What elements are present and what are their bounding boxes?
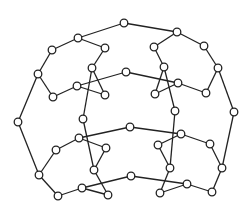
graph-node <box>151 90 159 98</box>
graph-node <box>156 189 164 197</box>
graph-node <box>174 79 182 87</box>
graph-node <box>166 164 174 172</box>
graph-edge <box>77 72 126 86</box>
graph-node <box>75 134 83 142</box>
graph-edge <box>178 83 206 93</box>
graph-node <box>208 188 216 196</box>
graph-edge <box>177 32 204 46</box>
graph-node <box>160 63 168 71</box>
graph-edge <box>218 68 234 112</box>
graph-node <box>48 46 56 54</box>
graph-node <box>206 140 214 148</box>
graph-node <box>49 93 57 101</box>
graph-edge <box>131 176 187 184</box>
graph-node <box>102 144 110 152</box>
graph-node <box>35 171 43 179</box>
graph-edge <box>18 74 38 122</box>
graph-node <box>230 108 238 116</box>
graph-node <box>79 115 87 123</box>
graph-edge <box>83 119 94 170</box>
graph-edge <box>181 134 210 144</box>
graph-node <box>104 191 112 199</box>
graph-edge <box>39 150 56 175</box>
graph-edge <box>18 122 39 175</box>
graph-edge <box>222 112 234 168</box>
graph-node <box>90 166 98 174</box>
graph-edge <box>124 23 177 32</box>
graph-edge <box>83 68 92 119</box>
graph-node <box>88 64 96 72</box>
graph-edge <box>82 176 131 188</box>
graph-node <box>101 44 109 52</box>
graph-node <box>34 70 42 78</box>
graph-node <box>177 130 185 138</box>
graph-node <box>126 123 134 131</box>
graph-nodes <box>14 19 238 200</box>
graph-node <box>73 82 81 90</box>
graph-node <box>122 68 130 76</box>
graph-node <box>150 43 158 51</box>
graph-node <box>173 28 181 36</box>
graph-node <box>154 141 162 149</box>
graph-node <box>101 91 109 99</box>
graph-node <box>120 19 128 27</box>
graph-node <box>183 180 191 188</box>
graph-node <box>214 64 222 72</box>
graph-edge <box>78 23 124 38</box>
graph-diagram <box>0 0 249 214</box>
graph-node <box>78 184 86 192</box>
graph-node <box>218 164 226 172</box>
graph-node <box>200 42 208 50</box>
graph-node <box>202 89 210 97</box>
graph-edge <box>126 72 178 83</box>
graph-edge <box>79 127 130 138</box>
graph-node <box>52 146 60 154</box>
graph-node <box>54 192 62 200</box>
graph-node <box>74 34 82 42</box>
graph-node <box>14 118 22 126</box>
graph-node <box>127 172 135 180</box>
graph-node <box>171 107 179 115</box>
